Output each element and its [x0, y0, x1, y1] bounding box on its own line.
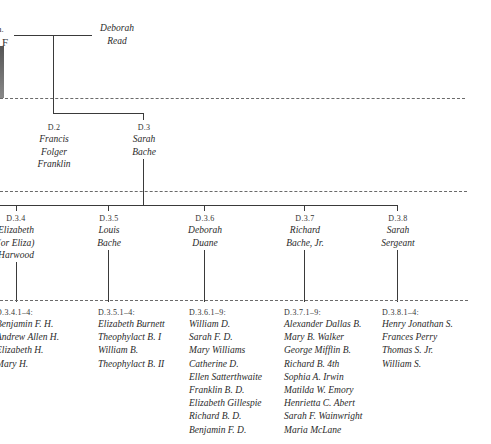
- generation-divider: [0, 191, 467, 192]
- grandchild-node-d38: D.3.8 Sarah Sergeant: [381, 213, 414, 249]
- child-connector: [397, 205, 398, 211]
- list-item: William D.: [189, 318, 262, 331]
- great-grandchildren-d34: D.3.4.1–4: Benjamin F. H. Andrew Allen H…: [0, 307, 59, 371]
- list-item: Mary H.: [0, 358, 59, 371]
- grandchild-node-d34: D.3.4 Elizabeth (or Eliza) Harwood: [0, 213, 34, 262]
- node-name-line: Folger: [37, 146, 70, 159]
- list-item: William B.: [98, 344, 165, 357]
- list-item: William S.: [382, 358, 453, 371]
- generation-divider: [0, 300, 468, 301]
- node-code: D.3.5: [97, 213, 121, 224]
- great-grandchildren-d35: D.3.5.1–4: Elizabeth Burnett Theophylact…: [98, 307, 165, 371]
- generation-divider: [0, 98, 465, 99]
- child-connector: [204, 205, 205, 211]
- node-code: D.2: [37, 122, 70, 133]
- child-node-d2: D.2 Francis Folger Franklin: [37, 122, 70, 171]
- grandchild-node-d35: D.3.5 Louis Bache: [97, 213, 121, 249]
- list-item: Catherine D.: [189, 358, 262, 371]
- list-item: Franklin B. D.: [189, 384, 262, 397]
- node-name-line: Bache: [132, 146, 156, 159]
- child-connector: [143, 113, 144, 120]
- node-name-line: Franklin: [37, 158, 70, 171]
- list-item: Mary B. Walker: [284, 331, 362, 344]
- great-grandchildren-d38: D.3.8.1–4: Henry Jonathan S. Frances Per…: [382, 307, 453, 371]
- list-item: Benjamin F. D.: [189, 424, 262, 437]
- node-name-line: Sarah: [381, 224, 414, 237]
- node-name-line: Sarah: [132, 133, 156, 146]
- list-item: Sarah F. D.: [189, 331, 262, 344]
- child-connector: [304, 205, 305, 211]
- list-item: Benjamin F. H.: [0, 318, 59, 331]
- list-item: Andrew Allen H.: [0, 331, 59, 344]
- list-item: Theophylact B. II: [98, 358, 165, 371]
- list-code: D.3.5.1–4:: [98, 307, 165, 318]
- list-item: Alexander Dallas B.: [284, 318, 362, 331]
- node-name-line: Harwood: [0, 249, 34, 262]
- list-item: Theophylact B. I: [98, 331, 165, 344]
- list-code: D.3.4.1–4:: [0, 307, 59, 318]
- spouse-name-line: Read: [100, 35, 134, 48]
- list-item: Mary Williams: [189, 344, 262, 357]
- list-code: D.3.8.1–4:: [382, 307, 453, 318]
- list-code: D.3.6.1–9:: [189, 307, 262, 318]
- grandchild-node-d37: D.3.7 Richard Bache, Jr.: [286, 213, 324, 249]
- node-name-line: (or Eliza): [0, 237, 34, 250]
- list-item: Thomas S. Jr.: [382, 344, 453, 357]
- great-grandchildren-d37: D.3.7.1–9: Alexander Dallas B. Mary B. W…: [284, 307, 362, 437]
- sibling-line: [0, 205, 398, 206]
- descent-line: [397, 250, 398, 302]
- node-code: D.3.8: [381, 213, 414, 224]
- node-name-line: Francis: [37, 133, 70, 146]
- child-connector: [108, 205, 109, 211]
- sibling-line: [53, 113, 144, 114]
- list-item: Elizabeth H.: [0, 344, 59, 357]
- list-item: Elizabeth Burnett: [98, 318, 165, 331]
- list-item: Maria McLane: [284, 424, 362, 437]
- spouse-name-line: Deborah: [100, 22, 134, 35]
- descent-line: [108, 250, 109, 302]
- edge-bar: [0, 46, 4, 98]
- node-name-line: Richard: [286, 224, 324, 237]
- descent-line: [53, 35, 54, 114]
- descent-line: [143, 159, 144, 205]
- node-name-line: Bache: [97, 237, 121, 250]
- descent-line: [16, 262, 17, 302]
- child-connector: [16, 205, 17, 211]
- list-item: Sarah F. Wainwright: [284, 410, 362, 423]
- list-item: Richard B. D.: [189, 410, 262, 423]
- node-name-line: Duane: [188, 237, 222, 250]
- list-code: D.3.7.1–9:: [284, 307, 362, 318]
- node-name-line: Sergeant: [381, 237, 414, 250]
- list-item: Henry Jonathan S.: [382, 318, 453, 331]
- edge-fragment-text: n.: [0, 24, 4, 34]
- node-code: D.3.6: [188, 213, 222, 224]
- list-item: Frances Perry: [382, 331, 453, 344]
- great-grandchildren-d36: D.3.6.1–9: William D. Sarah F. D. Mary W…: [189, 307, 262, 437]
- descent-line: [304, 250, 305, 302]
- spouse-deborah-read: Deborah Read: [100, 22, 134, 47]
- descent-line: [204, 250, 205, 302]
- node-name-line: Deborah: [188, 224, 222, 237]
- list-item: Henrietta C. Abert: [284, 397, 362, 410]
- child-node-d3: D.3 Sarah Bache: [132, 122, 156, 158]
- list-item: George Mifflin B.: [284, 344, 362, 357]
- node-code: D.3.7: [286, 213, 324, 224]
- node-code: D.3.4: [0, 213, 34, 224]
- list-item: Matilda W. Emory: [284, 384, 362, 397]
- node-name-line: Louis: [97, 224, 121, 237]
- list-item: Elizabeth Gillespie: [189, 397, 262, 410]
- grandchild-node-d36: D.3.6 Deborah Duane: [188, 213, 222, 249]
- list-item: Sophia A. Irwin: [284, 371, 362, 384]
- list-item: Richard B. 4th: [284, 358, 362, 371]
- list-item: Ellen Satterthwaite: [189, 371, 262, 384]
- node-name-line: Elizabeth: [0, 224, 34, 237]
- node-name-line: Bache, Jr.: [286, 237, 324, 250]
- node-code: D.3: [132, 122, 156, 133]
